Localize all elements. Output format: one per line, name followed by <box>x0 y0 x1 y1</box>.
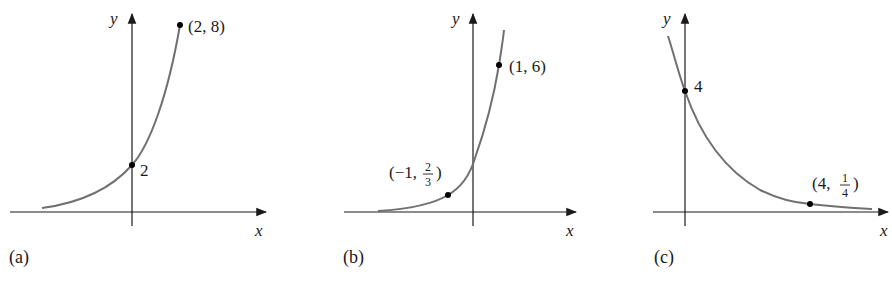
y-axis-label: y <box>108 9 118 28</box>
panel-caption: (b) <box>343 247 364 268</box>
point-label: (1, 6) <box>509 57 546 76</box>
x-axis-label: x <box>254 221 263 240</box>
curve <box>42 25 180 208</box>
svg-text:(4,: (4, <box>812 174 830 193</box>
point-label: (2, 8) <box>188 17 225 36</box>
panel-caption: (c) <box>654 247 674 268</box>
svg-text:1: 1 <box>842 171 848 185</box>
x-axis-label: x <box>565 221 574 240</box>
point-label-fraction: (−1, 2 3 ) <box>389 160 442 189</box>
point-label-fraction: (4, 1 4 ) <box>812 171 859 200</box>
point-marker <box>177 22 183 28</box>
point-label: 4 <box>694 77 703 96</box>
svg-text:4: 4 <box>842 186 848 200</box>
svg-text:): ) <box>436 163 442 182</box>
point-marker <box>807 201 813 207</box>
svg-text:3: 3 <box>425 175 431 189</box>
panel-c: 4 (4, 1 4 ) y x (c) <box>653 9 888 268</box>
svg-text:2: 2 <box>425 160 431 174</box>
x-axis-label: x <box>879 221 888 240</box>
panel-b: (1, 6) (−1, 2 3 ) y x (b) <box>343 9 576 268</box>
point-marker <box>682 88 688 94</box>
panel-caption: (a) <box>9 247 29 268</box>
svg-text:): ) <box>853 174 859 193</box>
point-label: 2 <box>140 161 149 180</box>
svg-text:(−1,: (−1, <box>389 163 417 182</box>
curve <box>378 30 504 211</box>
point-marker <box>129 162 135 168</box>
y-axis-label: y <box>450 9 460 28</box>
panel-a: 2 (2, 8) y x (a) <box>9 9 266 268</box>
y-axis-label: y <box>661 9 671 28</box>
point-marker <box>445 192 451 198</box>
figure: 2 (2, 8) y x (a) (1, 6) (−1, 2 3 ) y x (… <box>0 0 892 289</box>
point-marker <box>496 62 502 68</box>
